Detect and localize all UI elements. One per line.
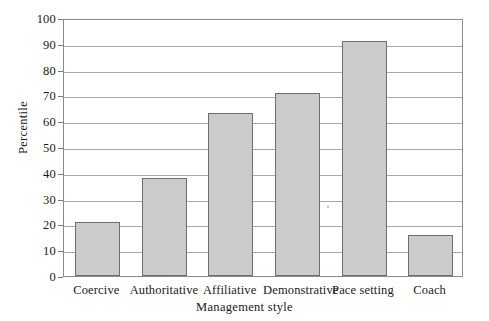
gridline-50 (64, 149, 462, 150)
scan-speck (344, 188, 345, 189)
gridline-30 (64, 201, 462, 202)
y-tick-label-90: 90 (22, 39, 56, 51)
gridline-10 (64, 252, 462, 253)
y-tick-label-40: 40 (22, 168, 56, 180)
y-tick-label-80: 80 (22, 65, 56, 77)
bar-demonstrative (275, 93, 320, 276)
gridline-60 (64, 123, 462, 124)
bar-coercive (75, 222, 120, 276)
gridline-90 (64, 46, 462, 47)
bar-authoritative (142, 178, 187, 276)
x-tick-label-coach: Coach (396, 283, 463, 297)
bar-chart-figure: Percentile 0102030405060708090100 Coerci… (0, 0, 489, 321)
x-axis-title: Management style (0, 300, 489, 315)
x-tick-label-pace-setting: Pace setting (330, 283, 397, 297)
y-tick-mark-0 (58, 277, 63, 278)
bar-pace-setting (342, 41, 387, 276)
x-tick-label-demonstrative: Demonstrative (263, 283, 330, 297)
gridline-70 (64, 97, 462, 98)
y-tick-label-10: 10 (22, 245, 56, 257)
x-tick-label-coercive: Coercive (63, 283, 130, 297)
gridline-80 (64, 72, 462, 73)
gridline-40 (64, 175, 462, 176)
bar-coach (408, 235, 453, 276)
x-tick-label-affiliative: Affiliative (196, 283, 263, 297)
bar-affiliative (208, 113, 253, 276)
plot-area (63, 19, 463, 277)
y-tick-label-30: 30 (22, 194, 56, 206)
scan-speck (327, 206, 329, 208)
y-axis-title: Percentile (16, 88, 31, 168)
y-tick-label-0: 0 (22, 271, 56, 283)
y-tick-label-20: 20 (22, 219, 56, 231)
gridline-20 (64, 226, 462, 227)
y-tick-label-100: 100 (22, 13, 56, 25)
x-tick-label-authoritative: Authoritative (130, 283, 197, 297)
